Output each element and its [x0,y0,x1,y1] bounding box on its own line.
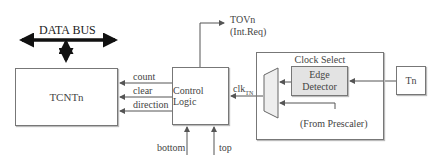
bottom-label: bottom [157,143,185,153]
clock-select-label: Clock Select [295,54,346,65]
control-logic-label: Control Logic [173,85,228,107]
tn-label: Tn [405,75,416,86]
edge-detector-line1: Edge [309,69,330,82]
count-label: count [133,72,155,82]
clear-label: clear [133,86,152,96]
clk-label: clkTN [233,84,253,96]
tov-wire [200,23,224,67]
edge-detector-block: Edge Detector [291,66,348,96]
direction-label: direction [133,100,169,110]
clk-subscript: TN [245,90,253,96]
tov-label: TOVn [230,15,255,25]
tcnt-register: TCNTn [15,68,118,126]
tcnt-label: TCNTn [49,91,83,103]
data-bus-arrow [22,40,115,60]
top-label: top [219,143,232,153]
int-req-label: (Int.Req) [230,27,266,37]
prescaler-label: (From Prescaler) [300,119,367,129]
clk-text: clk [233,83,245,94]
edge-detector-line2: Detector [302,81,336,94]
data-bus-label: DATA BUS [39,24,96,36]
tn-pin-block: Tn [396,66,426,95]
control-logic-block: Control Logic [172,67,229,125]
